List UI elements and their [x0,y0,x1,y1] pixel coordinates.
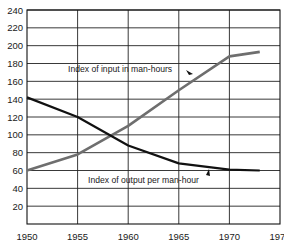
y-tick-label: 20 [12,201,23,212]
y-tick-label: 40 [12,183,23,194]
annotation-input-label: Index of input in man-hours [68,64,172,74]
line-chart: 20406080100120140160180200220240 1950195… [0,0,284,242]
grid-lines [27,10,280,224]
x-tick-label: 1955 [67,231,88,242]
x-tick-label: 1970 [219,231,240,242]
y-tick-label: 180 [7,58,23,69]
y-tick-label: 60 [12,165,23,176]
x-axis-tick-labels: 195019551960196519701975 [16,231,284,242]
x-tick-label: 1975 [269,231,284,242]
y-tick-label: 80 [12,147,23,158]
y-tick-label: 240 [7,5,23,16]
y-tick-label: 120 [7,112,23,123]
x-tick-label: 1960 [118,231,139,242]
y-tick-label: 140 [7,94,23,105]
arrow-icon [186,70,193,75]
y-tick-label: 220 [7,22,23,33]
y-tick-label: 100 [7,129,23,140]
x-tick-label: 1950 [16,231,37,242]
annotation-output-label: Index of output per man-hour [88,175,199,185]
x-tick-label: 1965 [168,231,189,242]
y-tick-label: 160 [7,76,23,87]
y-axis-tick-labels: 20406080100120140160180200220240 [7,5,23,212]
y-tick-label: 200 [7,40,23,51]
